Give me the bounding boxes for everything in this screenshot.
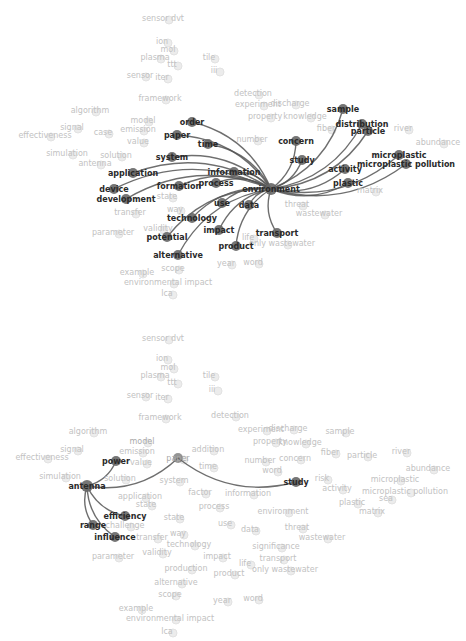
node-label: value [130, 458, 152, 467]
node-label: word [243, 594, 263, 603]
node-label: parameter [92, 228, 134, 237]
network-edge [271, 109, 343, 189]
node-label: product [214, 569, 245, 578]
node-label: number [236, 135, 267, 144]
network-panel-bottom: sensor dvtionmolplasmattttileiiisensorit… [0, 320, 466, 641]
node-label: emission [120, 125, 155, 134]
node-label: transport [260, 554, 297, 563]
node-label: sample [327, 105, 359, 114]
node-label: power [102, 457, 130, 466]
node-label: year [213, 596, 231, 605]
node-label: sensor dvt [142, 334, 184, 343]
node-label: simulation [39, 472, 81, 481]
node-label: data [239, 201, 259, 210]
node-label: fiber [317, 124, 335, 133]
node-label: plasma [140, 371, 169, 380]
node-label: parameter [92, 552, 134, 561]
node-label: algorithm [69, 427, 108, 436]
node-label: detection [234, 89, 272, 98]
node-label: effectiveness [15, 453, 68, 462]
node-label: application [108, 169, 158, 178]
network-edge [268, 189, 277, 233]
node-label: word [262, 466, 282, 475]
node-label: emission [119, 447, 154, 456]
node-label: impact [203, 552, 231, 561]
node-label: challenge [106, 521, 145, 530]
node-label: concern [278, 137, 314, 146]
node-label: way [167, 205, 183, 214]
node-label: transport [256, 229, 299, 238]
node-label: environmental impact [126, 614, 214, 623]
node-label: simulation [46, 149, 88, 158]
node-label: way [170, 529, 186, 538]
node-label: tile [203, 371, 216, 380]
node-label: case [94, 128, 112, 137]
node-label: time [198, 140, 218, 149]
node-label: ttt [167, 378, 176, 387]
network-edge [271, 141, 296, 189]
node-label: plastic [339, 498, 365, 507]
node-label: transfer [114, 208, 146, 217]
node-label: iii [209, 385, 216, 394]
node-label: antenna [78, 159, 111, 168]
node-label: particle [347, 451, 377, 460]
node-label: matrix [359, 507, 385, 516]
node-label: scope [161, 264, 184, 273]
node-label: sensor [127, 391, 154, 400]
node-label: significance [252, 542, 300, 551]
node-label: factor [188, 488, 211, 497]
node-label: risk [315, 474, 329, 483]
node-label: effectiveness [18, 131, 71, 140]
node-label: matrix [357, 186, 383, 195]
node-label: data [241, 525, 259, 534]
node-label: river [392, 447, 410, 456]
node-label: river [394, 124, 412, 133]
node-label: study [289, 156, 314, 165]
node-label: transfer [136, 533, 168, 542]
node-label: addition [192, 445, 225, 454]
node-label: abundance [416, 138, 461, 147]
node-label: range [80, 521, 106, 530]
node-label: model [130, 437, 155, 446]
node-label: efficiency [104, 512, 147, 521]
node-label: discharge [269, 424, 308, 433]
node-label: word [243, 258, 263, 267]
node-label: time [199, 462, 217, 471]
node-label: environment [242, 185, 300, 194]
node-label: system [160, 476, 189, 485]
node-label: sea [379, 494, 393, 503]
node-label: solution [104, 474, 136, 483]
node-label: use [218, 519, 232, 528]
node-label: threat [285, 523, 309, 532]
node-label: only wastewater [249, 239, 315, 248]
node-label: technology [167, 214, 217, 223]
node-label: paper [166, 454, 189, 463]
node-label: sensor dvt [142, 14, 184, 23]
node-label: knowledge [283, 112, 326, 121]
node-label: lca [161, 627, 173, 636]
node-label: microplastic [371, 151, 426, 160]
node-label: ion [156, 354, 168, 363]
node-label: threat [285, 200, 309, 209]
node-label: tile [203, 53, 216, 62]
node-label: state [157, 192, 177, 201]
node-label: validity [143, 224, 172, 233]
node-label: technology [167, 540, 211, 549]
node-label: microplastic [371, 475, 420, 484]
node-label: information [225, 489, 271, 498]
node-label: wastewater [299, 533, 345, 542]
node-label: property [248, 112, 282, 121]
node-label: order [180, 118, 205, 127]
node-label: example [120, 268, 154, 277]
node-label: scope [158, 590, 181, 599]
node-label: development [96, 195, 155, 204]
node-label: validity [142, 548, 171, 557]
node-label: model [131, 116, 156, 125]
node-label: impact [204, 226, 235, 235]
node-label: alternative [154, 578, 197, 587]
node-label: information [208, 168, 261, 177]
node-label: sample [325, 427, 354, 436]
node-label: paper [164, 131, 190, 140]
node-label: value [127, 137, 149, 146]
node-label: microplastic pollution [357, 160, 455, 169]
